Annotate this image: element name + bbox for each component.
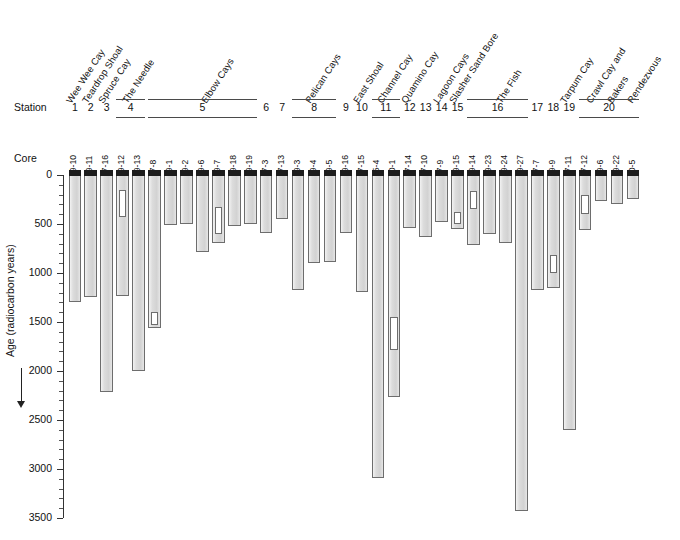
core-bar-hiatus-segment (215, 207, 223, 233)
y-axis-minor-tick (59, 400, 63, 401)
core-bar (531, 175, 544, 290)
core-bar (611, 175, 624, 204)
core-bar (180, 175, 193, 224)
y-axis-tick-label: 2000 (8, 364, 52, 376)
y-axis-minor-tick (59, 263, 63, 264)
core-bar (340, 175, 353, 233)
y-axis-minor-tick (59, 351, 63, 352)
core-bar (372, 175, 385, 478)
station-number: 5 (182, 101, 222, 113)
y-axis-minor-tick (59, 410, 63, 411)
core-bar-top-cap (579, 170, 592, 176)
core-bar-top-cap (228, 170, 241, 176)
core-bar (69, 175, 82, 302)
y-axis-minor-tick (59, 283, 63, 284)
core-bar-top-cap (515, 170, 528, 176)
station-number: 19 (549, 101, 589, 113)
y-axis-minor-tick (59, 312, 63, 313)
y-axis-minor-tick (59, 332, 63, 333)
y-axis-major-tick (57, 224, 63, 225)
station-number: 20 (589, 101, 629, 113)
station-group-rule (372, 117, 401, 118)
core-bar (356, 175, 369, 292)
core-bar (308, 175, 321, 263)
station-group-rule (148, 117, 256, 118)
core-bar-hiatus-segment (390, 317, 398, 350)
core-bar-top-cap (499, 170, 512, 176)
y-axis-minor-tick (59, 342, 63, 343)
locality-label: Pelican Cays (303, 51, 343, 105)
core-bar (324, 175, 337, 262)
core-bar (627, 175, 640, 199)
station-group-rule (579, 117, 639, 118)
y-axis-minor-tick (59, 195, 63, 196)
y-axis-minor-tick (59, 244, 63, 245)
station-group-rule (467, 117, 527, 118)
y-axis-minor-tick (59, 430, 63, 431)
core-bar-top-cap (467, 170, 480, 176)
core-bar (595, 175, 608, 201)
station-group-rule (372, 99, 401, 100)
y-axis-minor-tick (59, 302, 63, 303)
core-bar-top-cap (164, 170, 177, 176)
y-axis-major-tick (57, 420, 63, 421)
core-bar-top-cap (547, 170, 560, 176)
core-bar (292, 175, 305, 290)
chart-canvas: Wee Wee CayTeardrop ShoalSpruce CayThe N… (0, 0, 680, 540)
core-bar-top-cap (244, 170, 257, 176)
core-bar-top-cap (356, 170, 369, 176)
y-axis-minor-tick (59, 293, 63, 294)
y-axis-minor-tick (59, 459, 63, 460)
core-bar-top-cap (435, 170, 448, 176)
y-axis-minor-tick (59, 508, 63, 509)
core-bar (435, 175, 448, 222)
y-axis-tick-label: 2500 (8, 413, 52, 425)
station-group-rule (292, 99, 337, 100)
core-bar-top-cap (627, 170, 640, 176)
locality-label: Elbow Cays (199, 56, 236, 105)
y-axis-major-tick (57, 469, 63, 470)
core-bar-top-cap (276, 170, 289, 176)
core-bar-top-cap (419, 170, 432, 176)
station-group-rule (116, 117, 145, 118)
core-bar (467, 175, 480, 245)
y-axis-minor-tick (59, 498, 63, 499)
station-number: 16 (477, 101, 517, 113)
core-bar (164, 175, 177, 225)
y-axis-minor-tick (59, 185, 63, 186)
core-bar-hiatus-segment (581, 195, 589, 215)
age-direction-arrow-shaft (21, 368, 22, 404)
core-bar (419, 175, 432, 237)
core-bar-hiatus-segment (151, 312, 159, 325)
core-bar-top-cap (595, 170, 608, 176)
y-axis-major-tick (57, 322, 63, 323)
core-bar-hiatus-segment (119, 190, 127, 217)
core-bar-top-cap (212, 170, 225, 176)
y-axis-tick-label: 3500 (8, 511, 52, 523)
core-bar (403, 175, 416, 228)
core-bar-top-cap (403, 170, 416, 176)
core-bar-top-cap (260, 170, 273, 176)
y-axis-minor-tick (59, 234, 63, 235)
locality-label: Rendezvous (625, 54, 664, 105)
core-bar-top-cap (372, 170, 385, 176)
y-axis-major-tick (57, 175, 63, 176)
y-axis-minor-tick (59, 204, 63, 205)
core-bar-top-cap (324, 170, 337, 176)
core-bar (228, 175, 241, 226)
station-group-rule (148, 99, 256, 100)
core-bar-top-cap (483, 170, 496, 176)
station-group-rule (467, 99, 527, 100)
core-bar (563, 175, 576, 430)
station-group-rule (579, 99, 639, 100)
core-bar (515, 175, 528, 511)
core-bar-top-cap (100, 170, 113, 176)
core-bar-hiatus-segment (470, 191, 478, 210)
y-axis-major-tick (57, 371, 63, 372)
core-bar-top-cap (116, 170, 129, 176)
core-bar (196, 175, 209, 252)
core-bar-top-cap (611, 170, 624, 176)
core-bar-top-cap (563, 170, 576, 176)
core-bar-top-cap (69, 170, 82, 176)
core-bar-top-cap (531, 170, 544, 176)
